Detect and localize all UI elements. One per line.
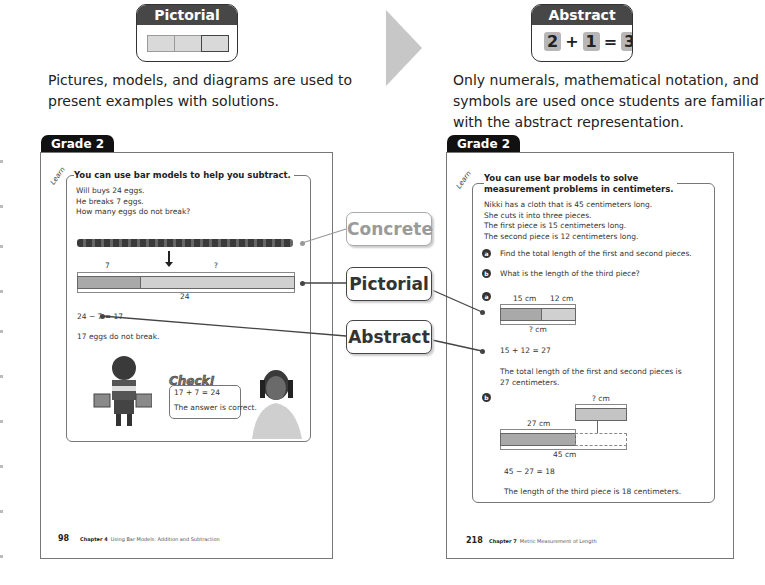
- connector-dot-pictorial-right: [480, 310, 485, 315]
- connector-dot-abstract-right: [480, 349, 485, 354]
- connector-dot-pictorial-left: [300, 281, 305, 286]
- pictorial-callout: Pictorial: [346, 267, 432, 301]
- connector-dot-abstract-left: [100, 314, 105, 319]
- connector-dot-concrete: [300, 241, 305, 246]
- concrete-callout: Concrete: [346, 212, 432, 246]
- abstract-callout: Abstract: [346, 320, 432, 354]
